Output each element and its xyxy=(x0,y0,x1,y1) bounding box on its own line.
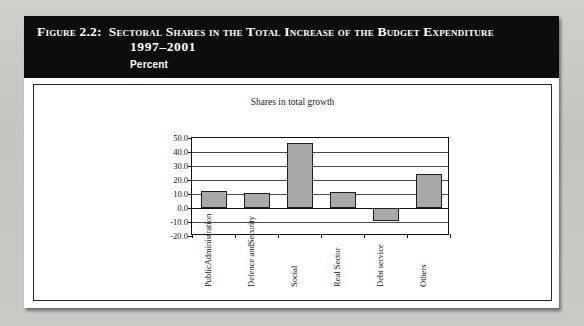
x-axis-label: Real Sector xyxy=(333,209,343,287)
x-axis-label-line: Social xyxy=(289,266,299,287)
plot-area: 50.040.030.020.010.00.0-10.0-20.0 xyxy=(191,137,449,235)
y-tick-label: 30.0 xyxy=(173,161,188,171)
page-root: Figure 2.2:Sectoral Shares in the Total … xyxy=(0,0,584,326)
y-tick-label: -20.0 xyxy=(170,231,188,241)
x-axis-label-line: Security xyxy=(246,216,256,244)
y-tick-label: 0.0 xyxy=(177,203,188,213)
chart-title: Shares in total growth xyxy=(34,97,551,107)
x-axis-label: PublicAdministration xyxy=(204,209,214,287)
x-axis-label: Defence andSecurity xyxy=(247,209,257,287)
figure-header-line-1: Figure 2.2:Sectoral Shares in the Total … xyxy=(37,22,494,40)
bar xyxy=(330,192,356,208)
x-tick-mark xyxy=(450,234,451,238)
x-axis-label-line: Debt service xyxy=(375,244,385,287)
x-axis-label: Debt service xyxy=(376,209,386,287)
figure-number-label: Figure 2.2: xyxy=(37,24,102,39)
x-axis-label-line: Real Sector xyxy=(332,248,342,287)
x-axis-label-line: Others xyxy=(418,264,428,287)
x-tick-mark xyxy=(235,234,236,238)
bar xyxy=(416,174,442,208)
y-tick-label: 10.0 xyxy=(173,189,188,199)
bar xyxy=(287,143,313,208)
y-tick-label: 40.0 xyxy=(173,147,188,157)
figure-title: Sectoral Shares in the Total Increase of… xyxy=(109,24,494,39)
figure-units-label: Percent xyxy=(130,59,168,70)
x-axis-label: Social xyxy=(290,209,300,287)
x-tick-mark xyxy=(321,234,322,238)
figure-header-band: Figure 2.2:Sectoral Shares in the Total … xyxy=(24,16,559,78)
bar xyxy=(244,193,270,208)
bar xyxy=(201,191,227,209)
chart-canvas: Shares in total growth 50.040.030.020.01… xyxy=(33,84,552,301)
y-tick-label: -10.0 xyxy=(170,217,188,227)
x-tick-mark xyxy=(407,234,408,238)
y-tick-label: 50.0 xyxy=(173,133,188,143)
figure-container: Figure 2.2:Sectoral Shares in the Total … xyxy=(24,16,559,308)
y-tick-label: 20.0 xyxy=(173,175,188,185)
x-axis-label-line: Defence and xyxy=(246,244,256,287)
figure-year-range: 1997–2001 xyxy=(130,39,196,55)
x-tick-mark xyxy=(364,234,365,238)
x-axis-label-line: Public xyxy=(203,265,213,287)
x-tick-mark xyxy=(278,234,279,238)
bar-series xyxy=(192,138,448,234)
x-axis-label: Others xyxy=(419,209,429,287)
x-axis-label-line: Administration xyxy=(203,214,213,265)
x-tick-mark xyxy=(192,234,193,238)
